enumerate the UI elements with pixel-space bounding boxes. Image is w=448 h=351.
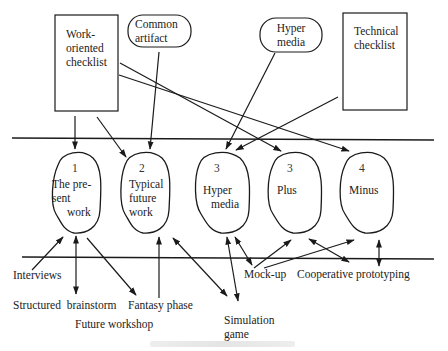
mockup-plus-label: Plus [277,183,297,197]
label-line: Minus [349,183,378,197]
arrow-1-to-fantasy [87,238,136,295]
label-line: media [203,197,239,211]
arrow-3-simulation-bidir [227,237,238,301]
bottom-divider-line [22,257,434,259]
cooperative-prototyping-label: Cooperative prototyping [297,267,410,281]
mockup-3-number: 3 [214,162,220,174]
label-line: checklist [354,38,399,52]
hyper-media-label: Hyper media [260,21,322,49]
future-workshop-label: Future workshop [75,317,153,331]
arrow-2-simulation-bidir [173,238,227,296]
label-line: Plus [277,183,297,197]
label-line: artifact [135,31,178,45]
mockup-minus-label: Minus [349,183,378,197]
work-oriented-checklist-label: Work- oriented checklist [66,27,107,69]
structured-brainstorm-label: Structured brainstorm [13,298,116,312]
label-line: Hyper [260,21,322,35]
mockup-3-label: Hyper media [203,183,239,211]
arrow-interviews-to-1 [32,237,63,270]
arrow-artifact-to-2 [150,52,159,149]
mock-up-label: Mock-up [244,267,286,281]
mockup-plus-number: 3 [287,162,293,174]
label-line: Typical [129,177,163,191]
label-line: Work- [66,27,107,41]
label-line: sent [52,191,91,205]
label-line: The pre- [52,177,91,191]
label-line: work [129,205,163,219]
label-line: checklist [66,55,107,69]
label-line: Technical [354,24,399,38]
label-line: work [52,205,91,219]
common-artifact-label: Common artifact [135,17,178,45]
arrow-mockup-to-plus [254,240,291,268]
interviews-label: Interviews [13,268,62,282]
mockup-minus-number: 4 [359,162,365,174]
label-line: Hyper [203,183,239,197]
label-line: media [260,35,322,49]
mockup-1-label: The pre- sent work [52,177,91,219]
arrow-checklist-to-plus [120,63,281,151]
simulation-game-label: Simulation game [224,313,274,341]
mockup-1-number: 1 [72,162,78,174]
figure-caption-illegible [150,341,295,347]
technical-checklist-label: Technical checklist [354,24,399,52]
label-line: Common [135,17,178,31]
label-line: game [224,327,274,341]
arrow-checklist-to-2 [97,117,126,157]
arrow-mockup-3-bidir [235,237,252,265]
label-line: oriented [66,41,107,55]
fantasy-phase-label: Fantasy phase [128,298,193,312]
label-line: Simulation [224,313,274,327]
label-line: future [129,191,163,205]
mockup-2-number: 2 [139,162,145,174]
mockup-2-label: Typical future work [129,177,163,219]
arrow-mockup-to-minus [264,240,354,268]
